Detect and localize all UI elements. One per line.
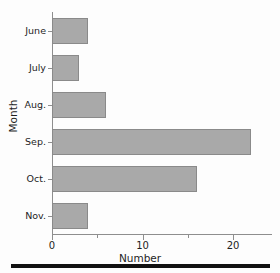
bar-nov (52, 203, 88, 229)
bar-row (52, 92, 272, 118)
y-tick-label-sep: Sep. (25, 137, 46, 147)
y-tick-label-oct: Oct. (27, 174, 46, 184)
y-tick-mark (48, 105, 52, 106)
bar-row (52, 55, 272, 81)
y-tick-label-nov: Nov. (25, 211, 46, 221)
bar-june (52, 18, 88, 44)
y-tick-label-aug: Aug. (24, 100, 46, 110)
x-tick-mark-minor (97, 235, 98, 238)
x-axis-line (52, 234, 272, 235)
bar-row (52, 203, 272, 229)
plot-area (52, 12, 272, 234)
x-tick-mark-minor (188, 235, 189, 238)
x-tick-label-0: 0 (49, 241, 55, 251)
y-tick-mark (48, 179, 52, 180)
y-tick-label-june: June (25, 26, 46, 36)
bar-row (52, 166, 272, 192)
y-tick-mark (48, 142, 52, 143)
bar-row (52, 129, 272, 155)
y-tick-label-july: July (29, 63, 46, 73)
y-tick-mark (48, 216, 52, 217)
x-tick-label-20: 20 (227, 241, 240, 251)
bar-row (52, 18, 272, 44)
y-tick-mark (48, 31, 52, 32)
y-tick-mark (48, 68, 52, 69)
bar-aug (52, 92, 106, 118)
bar-sep (52, 129, 251, 155)
x-tick-mark-minor (233, 235, 234, 238)
x-tick-label-10: 10 (136, 241, 149, 251)
bar-oct (52, 166, 197, 192)
bottom-rule (11, 264, 270, 268)
bar-chart-figure: JuneJulyAug.Sep.Oct.Nov.01020 Number Mon… (0, 0, 280, 273)
y-axis-title: Month (7, 81, 19, 151)
bar-july (52, 55, 79, 81)
x-axis-title: Number (0, 252, 280, 264)
